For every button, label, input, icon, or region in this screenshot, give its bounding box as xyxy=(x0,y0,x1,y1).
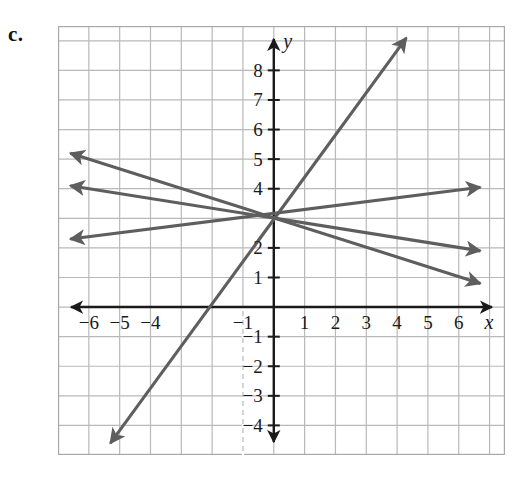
graph-background xyxy=(58,26,505,455)
y-tick-label: −3 xyxy=(243,385,263,406)
x-tick-label: 4 xyxy=(392,312,402,333)
y-tick-label: 2 xyxy=(253,237,262,258)
x-tick-label: −6 xyxy=(79,312,99,333)
y-tick-label: 1 xyxy=(253,267,262,288)
x-tick-label: −5 xyxy=(110,312,130,333)
x-tick-label: 2 xyxy=(331,312,341,333)
graph-svg: −6−5−4−11234568765421−1−2−3−4 xy xyxy=(58,26,505,455)
x-axis-name-label: x xyxy=(484,311,494,333)
x-tick-label: −4 xyxy=(140,312,161,333)
y-tick-label: 4 xyxy=(253,178,263,199)
y-tick-label: −2 xyxy=(243,356,263,377)
coordinate-graph: −6−5−4−11234568765421−1−2−3−4 xy xyxy=(58,26,505,455)
y-tick-label: 6 xyxy=(253,119,262,140)
x-tick-label: 5 xyxy=(423,312,433,333)
part-label: c. xyxy=(8,22,24,47)
y-tick-label: −1 xyxy=(243,326,263,347)
y-axis-name-label: y xyxy=(281,30,292,53)
y-tick-label: −4 xyxy=(243,415,264,436)
y-tick-label: 8 xyxy=(253,60,262,81)
x-tick-label: 3 xyxy=(362,312,372,333)
x-tick-label: 1 xyxy=(300,312,310,333)
x-tick-label: 6 xyxy=(454,312,464,333)
worksheet-page: c. −6−5−4−11234568765421−1−2−3−4 xyxy=(0,0,527,478)
y-tick-label: 7 xyxy=(253,89,262,110)
y-tick-label: 5 xyxy=(253,149,262,170)
